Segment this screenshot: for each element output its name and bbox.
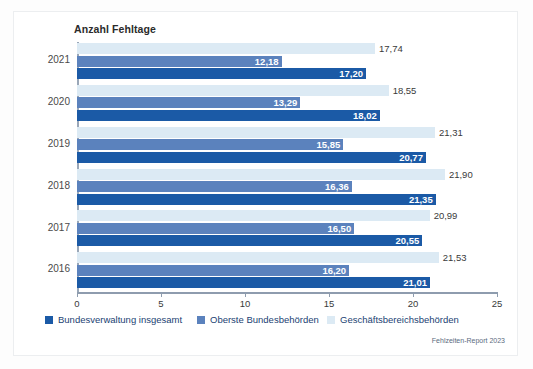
legend-item-dark[interactable]: Bundesverwaltung insgesamt [45, 314, 182, 325]
bar-2016-light[interactable] [77, 252, 439, 263]
x-axis-tick [161, 292, 162, 297]
bar-value-label: 18,02 [353, 110, 377, 121]
x-axis-tick-label: 10 [240, 298, 251, 309]
chart-title: Anzahl Fehltage [74, 23, 156, 35]
source-note: Fehlzeiten-Report 2023 [432, 337, 505, 344]
legend-swatch-icon [327, 316, 335, 324]
bar-value-label: 20,55 [395, 235, 419, 246]
bar-2021-mid[interactable] [77, 56, 282, 67]
bar-2018-dark[interactable] [77, 194, 436, 205]
y-axis-group-label-2020: 2020 [30, 96, 70, 107]
y-axis-group-label-2017: 2017 [30, 222, 70, 233]
bar-value-label: 12,18 [255, 56, 279, 67]
chart-legend: Bundesverwaltung insgesamtOberste Bundes… [45, 314, 495, 328]
bar-value-label: 21,90 [449, 169, 473, 180]
bar-2016-dark[interactable] [77, 277, 430, 288]
bar-value-label: 21,01 [403, 277, 427, 288]
legend-swatch-icon [197, 316, 205, 324]
bar-2018-light[interactable] [77, 169, 445, 180]
bar-2019-light[interactable] [77, 127, 435, 138]
y-axis-group-label-2016: 2016 [30, 263, 70, 274]
x-axis-tick-label: 5 [158, 298, 163, 309]
bar-value-label: 17,20 [339, 68, 363, 79]
bar-value-label: 21,53 [443, 252, 467, 263]
x-axis-tick-label: 15 [324, 298, 335, 309]
x-axis-tick-label: 25 [492, 298, 503, 309]
bar-value-label: 21,35 [409, 194, 433, 205]
bar-2020-mid[interactable] [77, 97, 300, 108]
x-axis-tick-label: 0 [74, 298, 79, 309]
bar-2016-mid[interactable] [77, 265, 349, 276]
legend-item-light[interactable]: Geschäftsbereichsbehörden [327, 314, 459, 325]
bar-2018-mid[interactable] [77, 181, 352, 192]
bar-value-label: 17,74 [379, 43, 403, 54]
bar-2017-light[interactable] [77, 210, 430, 221]
bar-2017-mid[interactable] [77, 223, 354, 234]
bar-value-label: 16,20 [322, 265, 346, 276]
bar-2017-dark[interactable] [77, 235, 422, 246]
legend-swatch-icon [45, 316, 53, 324]
legend-label: Geschäftsbereichsbehörden [340, 314, 459, 325]
bar-2020-dark[interactable] [77, 110, 380, 121]
bar-2019-dark[interactable] [77, 152, 426, 163]
bar-value-label: 18,55 [393, 85, 417, 96]
legend-label: Bundesverwaltung insgesamt [58, 314, 182, 325]
y-axis-group-label-2019: 2019 [30, 138, 70, 149]
bar-value-label: 16,50 [327, 223, 351, 234]
bar-value-label: 20,99 [434, 210, 458, 221]
x-axis-tick [77, 292, 78, 297]
bar-value-label: 16,36 [325, 181, 349, 192]
x-axis-line [77, 292, 497, 294]
x-axis-tick-label: 20 [408, 298, 419, 309]
bar-2021-light[interactable] [77, 43, 375, 54]
bar-value-label: 13,29 [273, 97, 297, 108]
legend-item-mid[interactable]: Oberste Bundesbehörden [197, 314, 319, 325]
y-axis-group-label-2018: 2018 [30, 180, 70, 191]
x-axis-tick [245, 292, 246, 297]
bar-value-label: 15,85 [316, 139, 340, 150]
bar-2019-mid[interactable] [77, 139, 343, 150]
bar-value-label: 21,31 [439, 127, 463, 138]
chart-figure: Anzahl Fehltage 0510152025 2021202020192… [0, 0, 533, 369]
bar-value-label: 20,77 [399, 152, 423, 163]
y-axis-group-label-2021: 2021 [30, 54, 70, 65]
x-axis-tick [497, 292, 498, 297]
bar-2020-light[interactable] [77, 85, 389, 96]
bar-2021-dark[interactable] [77, 68, 366, 79]
x-axis-tick [413, 292, 414, 297]
legend-label: Oberste Bundesbehörden [210, 314, 319, 325]
x-axis-tick [329, 292, 330, 297]
